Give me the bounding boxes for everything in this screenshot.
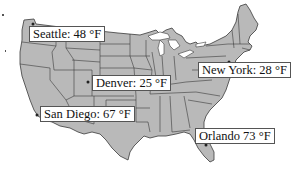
san-diego-label: San Diego: 67 °F	[40, 106, 135, 122]
san-diego-dot	[36, 114, 39, 117]
denver-label: Denver: 25 °F	[92, 75, 171, 91]
edge-mark	[2, 14, 4, 16]
edge-mark	[5, 50, 6, 52]
denver-dot	[87, 81, 90, 84]
orlando-label: Orlando 73 °F	[195, 128, 275, 144]
seattle-label: Seattle: 48 °F	[29, 26, 105, 42]
new-york-label: New York: 28 °F	[198, 62, 291, 78]
us-temperature-map: Seattle: 48 °F Denver: 25 °F New York: 2…	[0, 0, 291, 170]
